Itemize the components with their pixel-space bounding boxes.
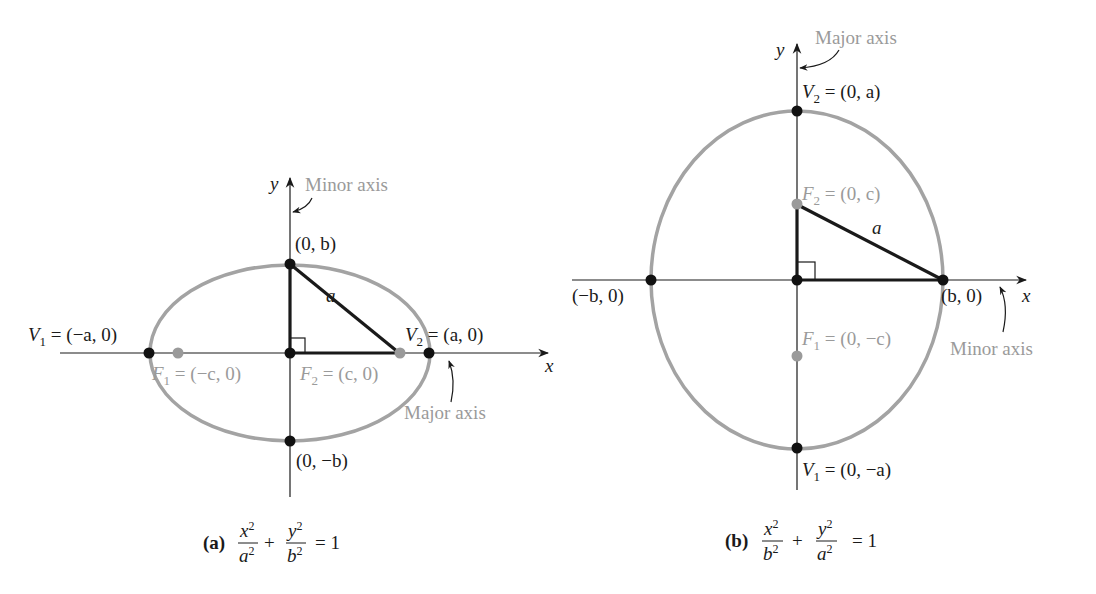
eq-term1-num: x2: [763, 517, 778, 539]
covertex-right: [938, 275, 949, 286]
label-v1: V1 = (0, −a): [802, 459, 891, 484]
label-f1: F1 = (0, −c): [801, 328, 891, 353]
label-top-point: (0, b): [295, 233, 336, 255]
label-f1: F1 = (−c, 0): [151, 363, 241, 388]
x-axis-label: x: [1021, 285, 1031, 306]
label-f2: F2 = (c, 0): [299, 363, 378, 388]
focus-f1: [173, 348, 184, 359]
eq-term2-num: y2: [816, 517, 832, 539]
caption-a: (a) x2 a2 + y2 b2 = 1: [203, 519, 340, 566]
covertex-top: [285, 259, 296, 270]
major-axis-annotation: Major axis: [404, 402, 486, 423]
eq-term2-den: a2: [817, 542, 833, 564]
caption-tag: (b): [725, 530, 748, 552]
focus-f2: [792, 199, 803, 210]
label-v1: V1 = (−a, 0): [28, 324, 117, 349]
major-axis-arrow: [449, 361, 453, 402]
eq-term1-den: a2: [239, 544, 255, 566]
covertex-bottom: [285, 436, 296, 447]
major-axis-annotation: Major axis: [815, 27, 897, 48]
focus-f1: [792, 351, 803, 362]
vertex-v2: [792, 106, 803, 117]
label-bottom-point: (0, −b): [296, 450, 348, 472]
eq-term2-den: b2: [287, 544, 303, 566]
vertex-v2: [424, 348, 435, 359]
center-point: [285, 348, 296, 359]
triangle-hypotenuse: [290, 264, 398, 352]
label-v2: V2 = (a, 0): [405, 324, 483, 349]
caption-tag: (a): [203, 532, 225, 554]
x-axis-label: x: [544, 355, 554, 376]
minor-axis-annotation: Minor axis: [305, 174, 388, 195]
caption-b: (b) x2 b2 + y2 a2 = 1: [725, 517, 877, 564]
minor-axis-annotation: Minor axis: [950, 338, 1033, 359]
label-v2: V2 = (0, a): [802, 81, 880, 106]
label-right-point: (b, 0): [941, 285, 982, 307]
hypotenuse-label: a: [872, 217, 882, 238]
eq-term2-num: y2: [286, 519, 302, 541]
panel-b: y x a V2 = (0, a) V1 = (0, −a) F2 = (0, …: [572, 27, 1033, 564]
eq-plus: +: [264, 532, 275, 553]
focus-f2: [395, 348, 406, 359]
minor-axis-arrow: [293, 198, 312, 212]
vertex-v1: [144, 348, 155, 359]
minor-axis-arrow: [1000, 287, 1005, 332]
eq-rhs: = 1: [315, 532, 340, 553]
label-left-point: (−b, 0): [572, 285, 624, 307]
hypotenuse-label: a: [326, 285, 336, 306]
eq-term1-den: b2: [763, 542, 779, 564]
triangle-hypotenuse: [798, 205, 943, 280]
panel-a: y x a (0, b) (0, −b) V1 = (−a, 0) V2 = (…: [28, 173, 554, 566]
y-axis-label: y: [774, 39, 785, 60]
major-axis-arrow: [800, 50, 839, 68]
center-point: [792, 275, 803, 286]
eq-term1-num: x2: [239, 519, 254, 541]
label-f2: F2 = (0, c): [801, 183, 880, 208]
eq-rhs: = 1: [852, 530, 877, 551]
covertex-left: [646, 275, 657, 286]
vertex-v1: [792, 443, 803, 454]
eq-plus: +: [792, 530, 803, 551]
ellipse-diagram: y x a (0, b) (0, −b) V1 = (−a, 0) V2 = (…: [0, 0, 1096, 594]
y-axis-label: y: [268, 173, 279, 194]
